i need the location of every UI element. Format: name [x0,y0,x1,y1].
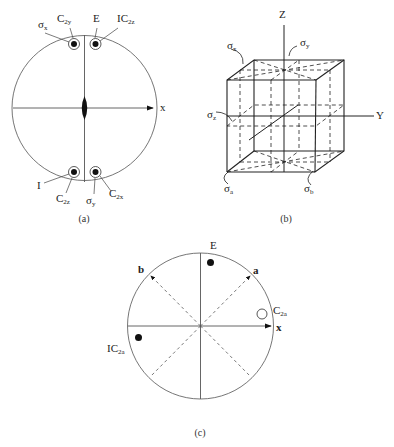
label-e-c: E [210,240,217,251]
panel-a-stereogram [12,28,157,194]
caption-b: (b) [280,214,292,224]
label-i: I [37,180,41,191]
label-sigma-y-a: σy [86,195,95,210]
label-z-axis: Z [279,9,286,20]
pole-symbol-bottom-left [69,167,80,178]
label-sigma-b: σb [304,183,313,198]
diagonal-a [201,276,251,326]
label-ic2z: IC2z [117,13,135,28]
caption-a: (a) [78,214,89,224]
caption-c: (c) [194,428,205,438]
label-a: a [253,265,259,276]
label-c2y: C2y [57,13,71,28]
label-sigma-x-a: σx [38,19,47,34]
label-c2x: C2x [109,188,123,203]
pole-open-c2a [257,309,267,319]
panel-c-stereogram [128,253,274,399]
twofold-axis-icon [82,96,88,120]
label-c2z: C2z [56,193,70,208]
pole-dot-e [207,259,214,266]
label-b: b [138,264,144,275]
pole-symbol-bottom-right [90,167,101,178]
label-e-a: E [93,13,100,24]
diagonal-b [151,276,201,326]
label-x-axis-c: x [276,322,282,333]
label-sigma-y-b: σy [300,37,309,52]
label-ic2a: IC2a [107,343,125,358]
label-x-axis-a: x [160,102,166,113]
pole-symbol-top-right [90,39,101,50]
panel-b-cube [216,25,374,185]
label-sigma-z: σz [207,109,216,124]
pole-dot-ic2a [135,334,142,341]
label-y-axis: Y [376,110,384,121]
label-sigma-x-b: σx [227,40,236,55]
label-c2a: C2a [273,305,287,320]
diagram-canvas [0,0,394,447]
x-axis-diagonal [249,105,298,140]
pole-symbol-top-left [69,39,80,50]
label-sigma-a: σa [224,183,233,198]
